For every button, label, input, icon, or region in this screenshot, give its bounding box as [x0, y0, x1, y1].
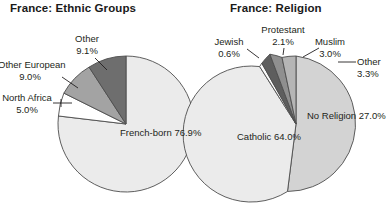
- callout-protestant: Protestant 2.1%: [253, 24, 313, 47]
- label-no-religion: No Religion 27.0%: [307, 110, 377, 122]
- leader-line-protestant: [283, 48, 284, 55]
- callout-protestant-pct: 2.1%: [253, 36, 313, 48]
- callout-other-european: Other European 9.0%: [0, 59, 62, 82]
- label-french-born: French-born 76.9%: [120, 127, 186, 139]
- label-catholic: Catholic 64.0%: [237, 131, 297, 143]
- callout-other-european-pct: 9.0%: [0, 71, 62, 83]
- pie-slice-no-religion[interactable]: [287, 56, 355, 191]
- callout-muslim-pct: 3.0%: [310, 48, 350, 60]
- label-catholic-name: Catholic: [237, 131, 271, 142]
- label-no-religion-name: No Religion: [307, 110, 356, 121]
- pie-ethnic-groups: [53, 56, 194, 192]
- callout-jewish: Jewish 0.6%: [209, 36, 249, 59]
- callout-jewish-name: Jewish: [214, 36, 243, 47]
- callout-muslim: Muslim 3.0%: [310, 36, 350, 59]
- label-french-born-name: French-born: [120, 127, 172, 138]
- callout-north-africa: North Africa 5.0%: [1, 92, 53, 115]
- callout-protestant-name: Protestant: [261, 24, 304, 35]
- callout-muslim-name: Muslim: [315, 36, 345, 47]
- callout-north-africa-pct: 5.0%: [1, 104, 53, 116]
- label-no-religion-pct: 27.0%: [359, 110, 386, 121]
- callout-jewish-pct: 0.6%: [209, 48, 249, 60]
- callout-other-religion-name: Other: [357, 56, 381, 67]
- pie-religion: [183, 48, 356, 202]
- label-catholic-pct: 64.0%: [274, 131, 301, 142]
- callout-north-africa-name: North Africa: [2, 92, 52, 103]
- callout-other-european-name: Other European: [0, 59, 66, 70]
- callout-other-religion: Other 3.3%: [357, 56, 387, 79]
- callout-other-ethnic-pct: 9.1%: [58, 45, 116, 57]
- callout-other-ethnic: Other 9.1%: [58, 33, 116, 56]
- callout-other-ethnic-name: Other: [75, 33, 99, 44]
- label-french-born-pct: 76.9%: [174, 127, 201, 138]
- callout-other-religion-pct: 3.3%: [357, 68, 387, 80]
